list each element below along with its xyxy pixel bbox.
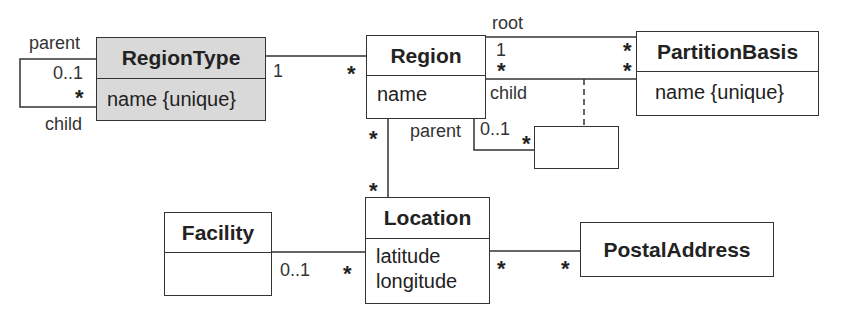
class-postaladdress: PostalAddress: [580, 222, 774, 277]
mult-location-facility: *: [343, 263, 352, 285]
class-facility: Facility: [164, 212, 272, 296]
mult-assoc-class: *: [522, 133, 531, 155]
class-region-name: Region: [367, 36, 485, 76]
mult-child-regiontype: *: [75, 87, 84, 109]
class-facility-name: Facility: [165, 213, 271, 253]
mult-region-regiontype-star: *: [347, 63, 356, 85]
mult-location-postal: *: [497, 258, 506, 280]
mult-parent-region: 0..1: [480, 119, 510, 140]
mult-parent-regiontype: 0..1: [53, 63, 83, 84]
class-location-name: Location: [366, 198, 489, 239]
mult-regiontype-region-1: 1: [273, 61, 283, 82]
role-child-regiontype: child: [45, 114, 82, 135]
mult-region-location-bottom: *: [369, 180, 378, 202]
class-location: Location latitude longitude: [365, 197, 490, 304]
class-region-attr: name: [367, 76, 485, 107]
class-regiontype-name: RegionType: [97, 38, 265, 79]
mult-region-location-top: *: [369, 128, 378, 150]
role-child-region: child: [490, 83, 527, 104]
class-partitionbasis: PartitionBasis name {unique}: [636, 31, 819, 116]
association-class-box: [534, 126, 619, 169]
class-location-attr-longitude: longitude: [376, 269, 489, 294]
class-partitionbasis-attr: name {unique}: [637, 72, 818, 105]
class-partitionbasis-name: PartitionBasis: [637, 32, 818, 72]
class-region: Region name: [366, 35, 486, 119]
mult-child-region: *: [497, 60, 506, 82]
role-parent-regiontype: parent: [29, 33, 80, 54]
mult-facility: 0..1: [280, 260, 310, 281]
role-parent-region: parent: [410, 121, 461, 142]
role-root: root: [492, 13, 523, 34]
class-location-attrs: latitude longitude: [366, 239, 489, 294]
class-postaladdress-name: PostalAddress: [581, 223, 773, 276]
class-regiontype-attr: name {unique}: [97, 79, 265, 112]
mult-postal-location: *: [561, 258, 570, 280]
class-regiontype: RegionType name {unique}: [96, 37, 266, 121]
mult-child-partition: *: [623, 60, 632, 82]
class-location-attr-latitude: latitude: [376, 244, 489, 269]
